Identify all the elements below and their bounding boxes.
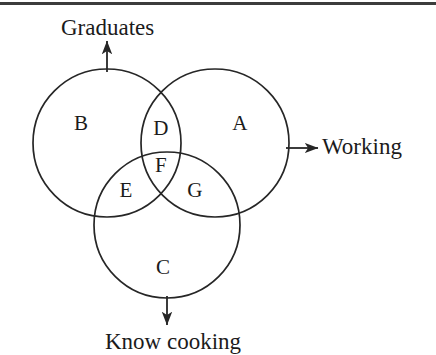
region-label-e: E	[119, 180, 132, 201]
region-label-g: G	[187, 180, 202, 201]
venn-diagram-canvas	[0, 0, 436, 355]
region-label-d: D	[153, 118, 168, 139]
circle-working	[141, 69, 289, 217]
region-label-c: C	[156, 257, 170, 278]
region-label-a: A	[232, 113, 247, 134]
region-label-b: B	[74, 113, 88, 134]
region-label-f: F	[155, 155, 167, 176]
venn-diagram: Graduates Working Know cooking A B C D E…	[0, 0, 436, 355]
axis-label-know-cooking: Know cooking	[105, 330, 241, 353]
axis-label-graduates: Graduates	[61, 16, 154, 39]
axis-label-working: Working	[322, 135, 402, 158]
circle-graduates	[33, 69, 181, 217]
